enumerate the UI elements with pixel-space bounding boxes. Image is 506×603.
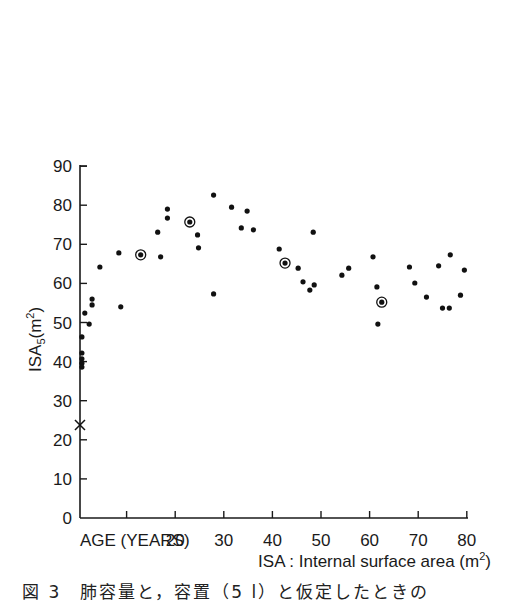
y-tick-label: 80 <box>53 196 72 215</box>
circled-data-point <box>136 250 146 260</box>
data-point <box>251 227 256 232</box>
data-point <box>165 216 170 221</box>
y-ticks: 0102030405060708090 <box>53 157 87 528</box>
data-point <box>458 293 463 298</box>
data-point <box>407 264 412 269</box>
data-point <box>196 245 201 250</box>
data-point <box>375 321 380 326</box>
data-point <box>436 263 441 268</box>
x-tick-label: 40 <box>263 531 282 550</box>
y-tick-label: 10 <box>53 470 72 489</box>
data-point <box>239 225 244 230</box>
data-point <box>370 254 375 259</box>
x-corner-label: AGE (YEARS) <box>80 531 190 550</box>
data-point <box>155 230 160 235</box>
data-point <box>300 279 305 284</box>
x-tick-label: 50 <box>312 531 331 550</box>
data-point <box>229 205 234 210</box>
y-tick-label: 60 <box>53 274 72 293</box>
data-point <box>195 232 200 237</box>
x-tick-label: 80 <box>457 531 476 550</box>
y-tick-label: 20 <box>53 431 72 450</box>
y-tick-label: 40 <box>53 353 72 372</box>
data-point <box>89 302 94 307</box>
data-point <box>158 254 163 259</box>
data-point <box>79 334 84 339</box>
data-point <box>346 266 351 271</box>
data-point <box>448 252 453 257</box>
data-point <box>374 284 379 289</box>
data-point <box>82 311 87 316</box>
y-axis-label: ISA5(m2) <box>24 307 47 372</box>
y-tick-label: 70 <box>53 235 72 254</box>
data-point <box>211 192 216 197</box>
data-point <box>440 305 445 310</box>
y-tick-label: 90 <box>53 157 72 176</box>
data-point <box>307 287 312 292</box>
data-point <box>424 294 429 299</box>
x-tick-label: 70 <box>409 531 428 550</box>
data-point <box>296 266 301 271</box>
y-tick-label: 50 <box>53 314 72 333</box>
data-point <box>447 305 452 310</box>
figure-caption: 図 3 肺容量と，容置（5 l）と仮定したときの <box>22 578 429 603</box>
y-tick-label: 0 <box>63 509 72 528</box>
data-point <box>165 207 170 212</box>
x-tick-label: 30 <box>214 531 233 550</box>
data-point <box>116 250 121 255</box>
data-point <box>412 280 417 285</box>
data-point <box>311 230 316 235</box>
x-axis-label: ISA : Internal surface area (m2) <box>258 550 491 571</box>
axes <box>80 165 468 518</box>
data-point <box>87 321 92 326</box>
data-point <box>97 264 102 269</box>
data-point <box>312 282 317 287</box>
data-point <box>462 268 467 273</box>
data-points <box>75 192 467 430</box>
data-point <box>118 304 123 309</box>
data-point <box>277 246 282 251</box>
data-point <box>89 296 94 301</box>
data-point <box>79 364 84 369</box>
circled-data-point <box>185 217 195 227</box>
circled-data-point <box>280 258 290 268</box>
x-tick-label: 60 <box>360 531 379 550</box>
circled-data-point <box>377 297 387 307</box>
data-point <box>211 291 216 296</box>
y-tick-label: 30 <box>53 392 72 411</box>
data-point <box>245 208 250 213</box>
data-point <box>339 273 344 278</box>
data-point <box>79 350 84 355</box>
